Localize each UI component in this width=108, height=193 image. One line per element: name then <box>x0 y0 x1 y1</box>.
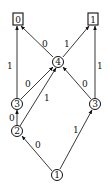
edge-label-n4-t1: 1 <box>64 39 70 49</box>
terminal-0-label: 0 <box>15 15 21 25</box>
edge-n1-n3R <box>60 110 92 169</box>
node-1: 1 <box>52 170 63 181</box>
node-3-right-label: 3 <box>92 99 98 109</box>
edge-label-n3L-t0: 1 <box>7 61 13 71</box>
edge-label-n2-n4: 1 <box>44 93 50 103</box>
edge-label-n3R-n4: 0 <box>82 79 88 89</box>
edge-n2-n4 <box>20 68 56 126</box>
node-2-label: 2 <box>14 126 20 136</box>
terminal-1: 1 <box>88 13 98 25</box>
node-3-left-label: 3 <box>14 99 20 109</box>
edge-label-n2-n3L: 0 <box>9 113 15 123</box>
node-3-right: 3 <box>90 99 101 110</box>
terminal-1-label: 1 <box>90 15 96 25</box>
edge-label-n1-n3R: 1 <box>73 125 79 135</box>
node-4: 4 <box>53 57 64 68</box>
edge-label-n3L-n4: 0 <box>25 79 31 89</box>
edge-n4-t0 <box>21 26 53 57</box>
node-1-label: 1 <box>54 170 60 180</box>
bdd-diagram: 0 1 1 0 1 0 0 1 0 1 0 1 4 3 3 2 1 <box>0 0 108 193</box>
node-3-left: 3 <box>12 99 23 110</box>
edges <box>17 26 95 171</box>
edge-label-n1-n2: 0 <box>35 140 41 150</box>
terminal-0: 0 <box>13 13 23 25</box>
edge-label-n4-t0: 0 <box>42 39 48 49</box>
node-4-label: 4 <box>55 57 61 67</box>
node-2: 2 <box>12 126 23 137</box>
edge-label-n3R-t1: 1 <box>97 61 103 71</box>
